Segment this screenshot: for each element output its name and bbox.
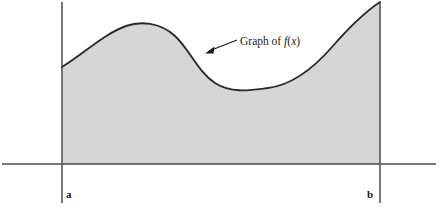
graph-label-close-paren: ) — [296, 35, 300, 48]
endpoint-label-a: a — [66, 188, 72, 200]
integral-area-figure: Graph of f(x) a b — [0, 0, 444, 209]
graph-label-prefix: Graph of — [240, 35, 284, 48]
callout-arrow-icon — [205, 47, 215, 54]
endpoint-label-b: b — [367, 188, 373, 200]
graph-of-f-label: Graph of f(x) — [240, 35, 300, 48]
shaded-area-under-curve — [62, 2, 380, 164]
